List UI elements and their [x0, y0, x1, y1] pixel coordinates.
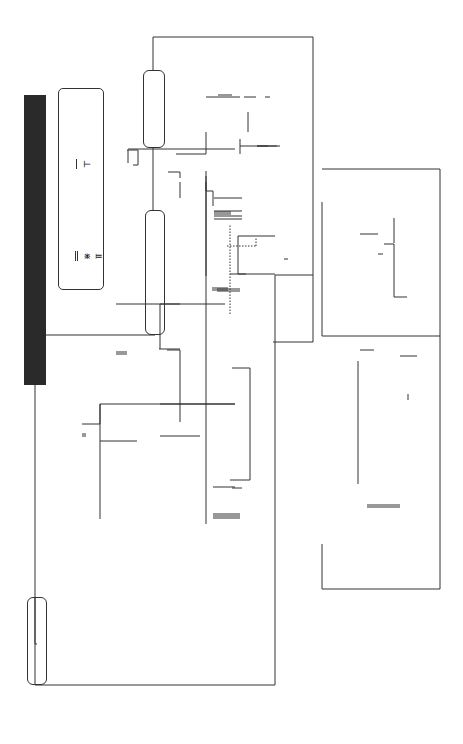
family-savage	[143, 70, 165, 148]
key-offspring: ⊤	[74, 156, 92, 169]
offspring-icon: ⊤	[83, 159, 92, 169]
family-daratrazanoff	[145, 210, 165, 335]
key-adopted: ⫪	[86, 248, 104, 261]
carpathians-family-tree: ⋇ ⫪ ⊤	[0, 0, 463, 744]
page-title	[24, 95, 46, 385]
adopted-icon: ⫪	[95, 251, 104, 261]
family-dubrinsky	[27, 597, 47, 685]
key-box: ⋇ ⫪ ⊤	[58, 88, 104, 290]
